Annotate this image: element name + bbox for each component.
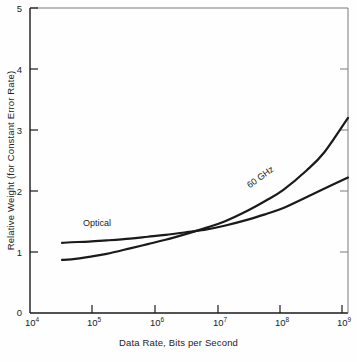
y-axis-ticks-right	[340, 69, 348, 252]
y-axis-ticks	[30, 8, 38, 252]
series-label-optical: Optical	[83, 218, 111, 228]
series-line-60ghz	[62, 118, 348, 260]
axis-frame	[30, 8, 348, 313]
x-axis-ticks	[92, 305, 342, 313]
chart-figure: Relative Weight (for Constant Error Rate…	[0, 0, 357, 362]
plot-area	[0, 0, 357, 362]
series-line-optical	[62, 178, 348, 243]
